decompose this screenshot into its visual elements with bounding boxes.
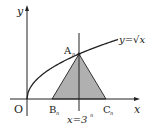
vertical-line-superscript: n (90, 112, 93, 118)
origin-label: O (14, 103, 23, 116)
y-axis-arrow-icon (25, 5, 29, 11)
point-c-subscript: n (110, 110, 113, 116)
curve-label: y=√x (118, 34, 145, 45)
point-a-label: A (63, 45, 72, 56)
x-axis-arrow-icon (134, 97, 140, 101)
x-axis-label: x (134, 103, 141, 116)
y-axis-label: y (16, 5, 24, 18)
sqrt-triangle-diagram: y x O A n B n C n y=√x x=3 n (0, 0, 156, 128)
vertical-line-label: x=3 (67, 114, 87, 125)
point-a-subscript: n (72, 51, 75, 57)
point-b-subscript: n (56, 110, 59, 116)
point-a-dot (78, 53, 81, 56)
